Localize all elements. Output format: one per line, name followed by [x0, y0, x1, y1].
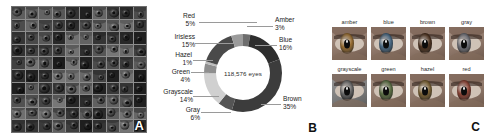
montage-tile [53, 70, 66, 82]
pupil-shape [45, 37, 48, 40]
montage-tile [53, 120, 66, 132]
eyelid-shape [134, 70, 147, 73]
slice-label-green: Green 4% [172, 68, 190, 85]
montage-tile [107, 95, 120, 107]
pupil-shape [57, 24, 60, 27]
montage-tile [12, 70, 25, 82]
pupil-shape [18, 89, 21, 92]
eyelid-shape [39, 20, 52, 24]
slice-label-brown-name: Brown [283, 95, 302, 102]
montage-tile [93, 32, 106, 44]
montage-tile [80, 20, 93, 32]
montage-tile [120, 83, 133, 95]
pupil-shape [85, 24, 88, 27]
panel-c-eye-examples: amberbluebrowngraygrayscalegreenhazelred… [323, 0, 489, 139]
eyelid-shape [80, 7, 93, 9]
slice-label-red-name: Red [183, 12, 195, 19]
montage-tile [80, 83, 93, 95]
montage-tile [39, 83, 52, 95]
montage-tile [39, 20, 52, 32]
montage-tile [12, 32, 25, 44]
montage-tile [93, 7, 106, 19]
leader-line-gray [201, 112, 231, 113]
eye-photo [449, 74, 484, 107]
montage-tile [93, 95, 106, 107]
pupil-shape [99, 99, 102, 102]
pupil-shape [123, 88, 126, 91]
pupil-shape [69, 98, 72, 101]
montage-tile [53, 95, 66, 107]
montage-tile [120, 57, 133, 69]
montage-tile [39, 120, 52, 132]
montage-tile [66, 83, 79, 95]
pupil-shape [57, 74, 60, 77]
pupil-shape [85, 87, 88, 90]
slice-label-gray-pct: 6% [186, 114, 200, 122]
montage-tile [120, 20, 133, 32]
montage-tile [12, 108, 25, 120]
eyelid-shape [120, 57, 133, 60]
pupil-shape [86, 124, 89, 127]
montage-tile [120, 70, 133, 82]
montage-tile [93, 108, 106, 120]
slice-label-hazel: Hazel 1% [175, 51, 192, 68]
pupil-shape [43, 50, 46, 53]
slice-label-grayscale-pct: 14% [163, 96, 193, 104]
lower-eyelid [371, 52, 406, 60]
montage-tile [134, 57, 147, 69]
eye-example-green: green [371, 66, 406, 107]
slice-label-irisless: Irisless 15% [174, 33, 195, 50]
pupil-shape [57, 86, 61, 89]
montage-tile [93, 70, 106, 82]
slice-label-gray-name: Gray [186, 106, 200, 113]
montage-tile [120, 95, 133, 107]
montage-tile [12, 7, 25, 19]
montage-tile [120, 108, 133, 120]
eye-example-grayscale: grayscale [332, 66, 367, 107]
montage-tile [134, 95, 147, 107]
pupil-shape [97, 11, 100, 14]
eyelid-shape [12, 32, 25, 35]
montage-tile [26, 70, 39, 82]
montage-tile [12, 95, 25, 107]
montage-tile [26, 57, 39, 69]
montage-tile [12, 83, 25, 95]
leader-line-red [199, 22, 257, 23]
montage-tile [26, 120, 39, 132]
slice-label-blue: Blue 16% [279, 36, 292, 53]
pupil-shape [59, 111, 62, 114]
pupil-shape [99, 63, 102, 66]
pupil-shape [140, 50, 144, 53]
eye-example-caption: green [371, 66, 406, 73]
montage-tile [12, 20, 25, 32]
slice-label-grayscale-name: Grayscale [163, 88, 193, 95]
slice-label-hazel-name: Hazel [175, 51, 192, 58]
montage-tile [120, 120, 133, 132]
pupil-shape [70, 24, 73, 27]
montage-tile [80, 32, 93, 44]
pupil-shape [45, 125, 48, 128]
montage-tile [26, 7, 39, 19]
eyelid-shape [53, 7, 66, 10]
montage-tile [80, 108, 93, 120]
eye-example-hazel: hazel [410, 66, 445, 107]
montage-tile [66, 95, 79, 107]
pupil-shape [16, 99, 19, 102]
leader-line-hazel [193, 60, 213, 61]
montage-tile [66, 70, 79, 82]
eye-example-red: red [449, 66, 484, 107]
montage-tile [66, 45, 79, 57]
montage-tile [39, 32, 52, 44]
pupil-shape [31, 12, 34, 15]
eye-example-caption: hazel [410, 66, 445, 73]
montage-tile [107, 45, 120, 57]
pupil-shape [125, 63, 128, 66]
montage-tile [93, 120, 106, 132]
montage-tile [53, 20, 66, 32]
eyelid-shape [53, 57, 66, 60]
pupil-shape [110, 126, 113, 129]
slice-label-amber: Amber 3% [275, 16, 294, 33]
montage-tile [53, 32, 66, 44]
figure-root: A 118,576 eyes Red 5% Irisless 15% H [0, 0, 489, 139]
montage-tile [39, 95, 52, 107]
